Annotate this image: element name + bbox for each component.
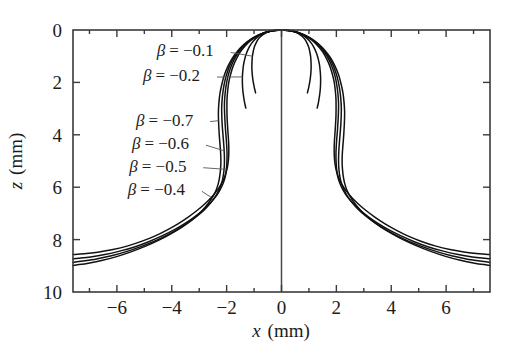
y-tick-label: 10 <box>43 282 62 303</box>
chart-background <box>0 0 508 347</box>
meniscus-profile-chart: −6−4−20246 0246810 β= −0.1β= −0.2β= −0.7… <box>0 0 508 347</box>
beta-annotation-label: β= −0.1 <box>156 41 214 60</box>
x-tick-label: 4 <box>386 297 396 318</box>
beta-annotation-label: β= −0.2 <box>142 66 200 85</box>
beta-annotation-label: β= −0.4 <box>127 180 186 199</box>
y-tick-label: 8 <box>53 230 63 251</box>
x-tick-label: −2 <box>217 297 237 318</box>
x-axis-title: x(mm) <box>251 320 310 342</box>
x-tick-label: 0 <box>277 297 287 318</box>
beta-annotation-label: β= −0.6 <box>131 134 189 153</box>
x-tick-label: 6 <box>441 297 451 318</box>
y-tick-label: 0 <box>53 20 63 41</box>
y-tick-label: 2 <box>53 72 63 93</box>
x-tick-label: −4 <box>162 297 183 318</box>
beta-annotation-label: β= −0.5 <box>128 157 186 176</box>
x-tick-label: 2 <box>332 297 342 318</box>
beta-annotation-label: β= −0.7 <box>135 111 194 130</box>
y-tick-label: 6 <box>53 177 63 198</box>
x-tick-label: −6 <box>107 297 127 318</box>
y-tick-label: 4 <box>53 125 63 146</box>
figure-container: −6−4−20246 0246810 β= −0.1β= −0.2β= −0.7… <box>0 0 508 347</box>
